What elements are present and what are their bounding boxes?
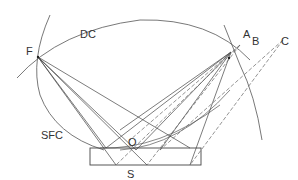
- dc-circle-arc: [17, 20, 250, 78]
- slab-rectangle: [90, 148, 201, 165]
- point-a: [228, 57, 230, 59]
- optics-diagram: F DC A B C SFC O S: [0, 0, 298, 180]
- label-sfc: SFC: [41, 129, 63, 141]
- label-a: A: [243, 28, 251, 40]
- rays-from-f: [38, 57, 190, 165]
- label-dc: DC: [80, 28, 96, 40]
- label-o: O: [128, 136, 137, 148]
- label-f: F: [26, 45, 33, 57]
- label-s: S: [127, 168, 134, 180]
- label-b: B: [252, 35, 259, 47]
- label-c: C: [281, 35, 289, 47]
- point-f: [37, 56, 39, 58]
- inner-arc-1: [100, 105, 220, 148]
